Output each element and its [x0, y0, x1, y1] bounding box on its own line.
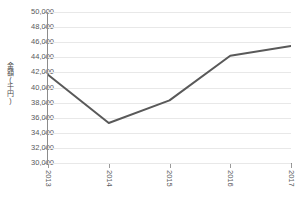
y-axis-tick — [44, 57, 48, 58]
y-axis-tick — [44, 133, 48, 134]
y-axis-tick — [44, 88, 48, 89]
y-axis-tick — [44, 42, 48, 43]
y-axis-tick — [44, 12, 48, 13]
y-axis-tick — [44, 118, 48, 119]
y-axis-tick — [44, 148, 48, 149]
line-chart: 金額(千円) 50,00048,00046,00044,00042,00040,… — [0, 0, 302, 201]
data-series-line — [48, 12, 291, 164]
x-axis-tick-label: 2014 — [105, 170, 113, 187]
x-axis-tick — [170, 164, 171, 168]
x-axis-tick-label: 2015 — [166, 170, 174, 187]
x-axis-tick-label: 2013 — [44, 170, 52, 187]
y-axis-tick — [44, 72, 48, 73]
y-axis-tick — [44, 103, 48, 104]
x-axis-tick-label: 2016 — [227, 170, 235, 187]
x-axis-tick — [48, 164, 49, 168]
x-axis-tick — [109, 164, 110, 168]
y-axis-title: 金額(千円) — [1, 62, 14, 104]
x-axis-tick — [230, 164, 231, 168]
x-axis-tick-label: 2017 — [287, 170, 295, 187]
x-axis-tick — [291, 164, 292, 168]
y-axis-tick — [44, 27, 48, 28]
